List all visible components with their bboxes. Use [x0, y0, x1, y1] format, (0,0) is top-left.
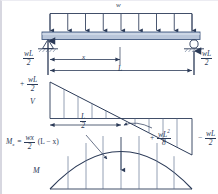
beam-body — [42, 32, 200, 40]
dimension-L-half-fraction: L 2 — [80, 113, 86, 129]
moment-equation-subscript: x — [12, 142, 14, 147]
left-reaction-label: wL 2 — [23, 50, 34, 66]
dimension-L-label: L — [118, 65, 122, 73]
moment-equation-equals: = — [16, 138, 22, 146]
moment-equation-factor: (L − x) — [37, 138, 60, 146]
right-reaction-fraction: wL 2 — [201, 50, 212, 66]
dimension-x-label: x — [82, 54, 85, 61]
left-reaction-fraction: wL 2 — [23, 50, 34, 66]
load-intensity-label: w — [116, 2, 121, 9]
max-moment-sign: + — [150, 134, 155, 142]
distributed-load-arrows — [50, 14, 192, 31]
moment-axis-label: M — [33, 167, 40, 175]
beam-diagram-figure: w wL 2 wL 2 x L + wL 2 V L 2 − — [0, 0, 218, 194]
max-moment-fraction: wL2 8 — [157, 129, 171, 147]
dimension-L-half-label: L 2 — [80, 113, 86, 129]
shear-peak-sign: + — [20, 80, 25, 88]
shear-peak-label: + wL 2 — [20, 76, 38, 92]
shear-end-sign: − — [198, 134, 203, 142]
max-moment-label: + wL2 8 — [150, 129, 171, 147]
max-moment-numerator: wL2 — [157, 129, 171, 138]
shear-end-fraction: wL 2 — [205, 130, 216, 146]
right-reaction-label: wL 2 — [201, 50, 212, 66]
moment-equation: Mx = wx 2 (L − x) — [6, 134, 60, 150]
shear-peak-fraction: wL 2 — [27, 76, 38, 92]
moment-equation-coefficient: wx 2 — [24, 134, 34, 150]
shear-axis-label: V — [30, 98, 35, 106]
shear-end-label: − wL 2 — [198, 130, 216, 146]
